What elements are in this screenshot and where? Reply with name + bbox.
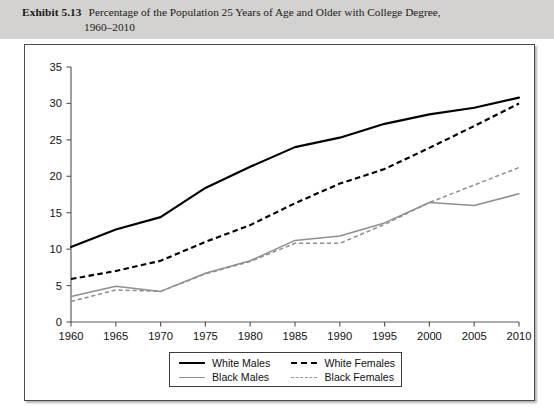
series-line-white-males <box>71 98 519 247</box>
x-axis-tick-label: 1965 <box>103 330 128 342</box>
legend-item-black-males[interactable]: Black Males <box>179 372 291 383</box>
x-axis-tick-label: 1980 <box>238 330 263 342</box>
y-axis-tick-label: 5 <box>56 280 62 292</box>
chart-axes: 0510152025303519601965197019751980198519… <box>50 61 532 342</box>
series-line-black-males <box>71 194 519 297</box>
x-axis-tick-label: 2000 <box>417 330 442 342</box>
legend-row-1: White Males White Females <box>170 356 401 370</box>
y-axis-tick-label: 0 <box>56 316 62 328</box>
x-axis-tick-label: 1990 <box>327 330 352 342</box>
legend-label-black-males: Black Males <box>212 372 269 383</box>
line-swatch-icon <box>179 362 205 364</box>
legend-label-black-females: Black Females <box>324 372 393 383</box>
legend-item-white-females[interactable]: White Females <box>291 358 401 369</box>
chart-series <box>71 98 519 302</box>
line-chart-plot: 0510152025303519601965197019751980198519… <box>25 45 534 400</box>
legend-item-white-males[interactable]: White Males <box>179 358 291 369</box>
dashed-line-swatch-icon <box>291 377 317 378</box>
y-axis-tick-label: 30 <box>50 97 62 109</box>
exhibit-header-text: Exhibit 5.13Percentage of the Population… <box>22 5 532 35</box>
legend-label-white-females: White Females <box>324 358 395 369</box>
dashed-line-swatch-icon <box>291 362 317 364</box>
y-axis-tick-label: 25 <box>50 134 62 146</box>
y-axis-tick-label: 15 <box>50 207 62 219</box>
exhibit-title-line1: Percentage of the Population 25 Years of… <box>89 6 441 18</box>
series-line-black-females <box>71 168 519 302</box>
x-axis-tick-label: 1985 <box>283 330 308 342</box>
x-axis-tick-label: 1970 <box>148 330 173 342</box>
exhibit-header-banner: Exhibit 5.13Percentage of the Population… <box>0 0 554 39</box>
exhibit-number-label: Exhibit 5.13 <box>22 6 82 18</box>
x-axis-tick-label: 1960 <box>59 330 84 342</box>
y-axis-tick-label: 35 <box>50 61 62 73</box>
x-axis-tick-label: 2005 <box>462 330 487 342</box>
chart-figure-frame: 0510152025303519601965197019751980198519… <box>24 44 535 401</box>
y-axis-tick-label: 10 <box>50 243 62 255</box>
series-line-white-females <box>71 103 519 279</box>
legend-item-black-females[interactable]: Black Females <box>291 372 401 383</box>
x-axis-tick-label: 2010 <box>507 330 532 342</box>
legend-label-white-males: White Males <box>212 358 270 369</box>
x-axis-tick-label: 1975 <box>193 330 218 342</box>
y-axis-tick-label: 20 <box>50 170 62 182</box>
legend-row-2: Black Males Black Females <box>170 370 401 384</box>
x-axis-tick-label: 1995 <box>372 330 397 342</box>
chart-legend: White Males White Females Black Males Bl… <box>169 352 402 387</box>
line-swatch-icon <box>179 377 205 378</box>
exhibit-title-line2: 1960–2010 <box>84 20 532 35</box>
